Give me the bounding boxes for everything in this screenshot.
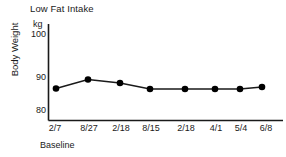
x-tick-label-2: 2/18 [112, 123, 130, 133]
chart-container: Low Fat Intake Body Weight kg 100 90 80 … [0, 0, 286, 157]
data-point-marker [259, 84, 266, 91]
data-point-marker [212, 86, 219, 93]
x-tick-label-6: 5/4 [235, 123, 248, 133]
data-point-marker [237, 86, 244, 93]
data-point-marker [147, 86, 154, 93]
data-point-marker [117, 80, 124, 87]
x-tick-label-5: 4/1 [210, 123, 223, 133]
x-axis-baseline-label: Baseline [40, 140, 75, 150]
x-tick-label-1: 8/27 [80, 123, 98, 133]
data-point-marker [53, 85, 60, 92]
plot-area [0, 0, 286, 157]
x-tick-label-0: 2/7 [49, 123, 62, 133]
data-point-marker [182, 86, 189, 93]
x-tick-label-7: 6/8 [260, 123, 273, 133]
x-tick-label-4: 2/18 [177, 123, 195, 133]
data-point-marker [85, 76, 92, 83]
x-tick-label-3: 8/15 [142, 123, 160, 133]
